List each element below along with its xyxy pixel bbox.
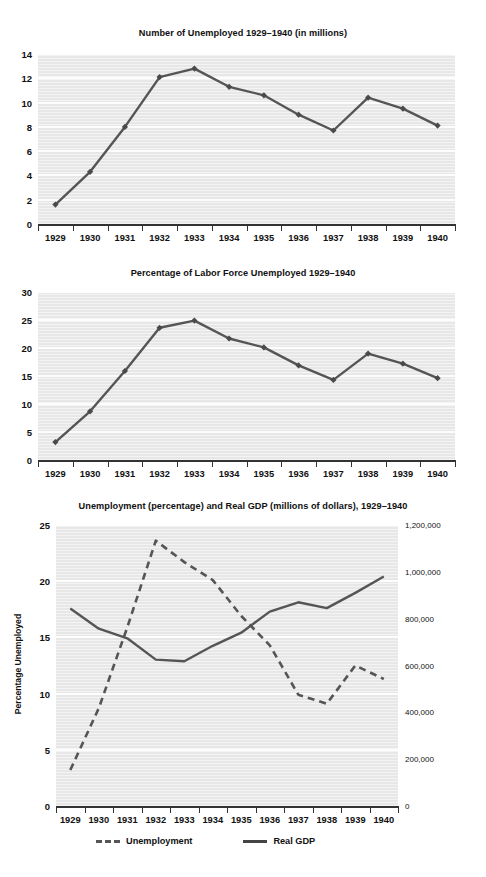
series-line-unemployment [70,541,384,770]
solid-line-swatch-icon [243,840,267,843]
chart-2-title: Percentage of Labor Force Unemployed 192… [0,268,486,278]
legend-item-real-gdp[interactable]: Real GDP [243,836,315,846]
chart-1-plot-area: 0246810121419291930193119321933193419351… [0,38,486,248]
series-overlay [0,511,486,846]
y-axis-label-left: Percentage Unemployed [13,594,23,734]
chart-unemployment-and-gdp: Unemployment (percentage) and Real GDP (… [0,501,486,846]
dashed-line-swatch-icon [96,840,120,843]
series-overlay [0,38,486,264]
chart-percentage-labor-force: Percentage of Labor Force Unemployed 192… [0,268,486,493]
chart-3-title: Unemployment (percentage) and Real GDP (… [0,501,486,511]
chart-unemployed-millions: Number of Unemployed 1929–1940 (in milli… [0,28,486,258]
chart-1-title: Number of Unemployed 1929–1940 (in milli… [0,28,486,38]
series-line-real-gdp [70,577,384,662]
series-overlay [0,278,486,500]
chart-2-plot-area: 0510152025301929193019311932193319341935… [0,278,486,483]
series-line [55,69,437,205]
series-line [55,321,437,443]
legend-label: Unemployment [126,836,192,846]
legend-item-unemployment[interactable]: Unemployment [96,836,192,846]
legend-label: Real GDP [273,836,315,846]
chart-legend: UnemploymentReal GDP [96,836,315,846]
figure-page: Number of Unemployed 1929–1940 (in milli… [0,0,486,877]
chart-3-plot-area: 05101520250200,000400,000600,000800,0001… [0,511,486,836]
